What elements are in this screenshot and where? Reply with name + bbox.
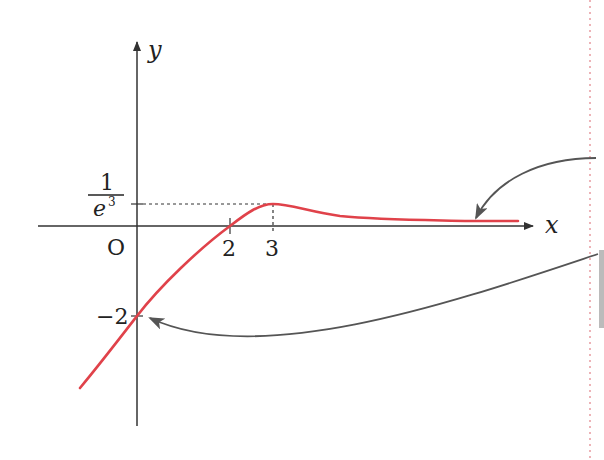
fraction-denominator-exponent: 3 (108, 195, 116, 209)
annotation-arrow-intercept (150, 254, 598, 336)
annotation-arrow-asymptote (476, 158, 596, 218)
function-curve (80, 204, 518, 388)
page-edge-bar (599, 250, 604, 328)
fraction-numerator: 1 (100, 170, 114, 195)
function-graph: x y O 2 3 1 e 3 −2 (0, 0, 604, 460)
origin-label: O (107, 235, 125, 260)
x-axis-label: x (545, 211, 559, 239)
y-tick-label-minus2: −2 (96, 304, 128, 329)
x-tick-label-2: 2 (222, 236, 236, 261)
y-axis-label: y (147, 36, 162, 64)
fraction-denominator-base: e (93, 196, 106, 221)
y-tick-label-max: 1 e 3 (88, 170, 124, 221)
x-tick-label-3: 3 (265, 236, 279, 261)
